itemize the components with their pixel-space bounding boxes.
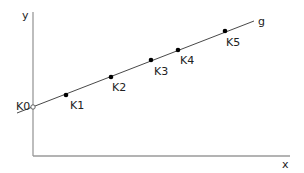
point-k4-label: K4 (180, 54, 194, 67)
point-k0-label: K0 (16, 100, 30, 113)
point-k0 (31, 105, 35, 109)
point-k5 (223, 29, 228, 34)
diagram-canvas: y x g K0 K1 K2 K3 K4 K5 (0, 0, 304, 173)
point-k1 (64, 93, 69, 98)
point-k2-label: K2 (112, 81, 126, 94)
point-k2 (109, 75, 114, 80)
point-k3 (149, 58, 154, 63)
point-k5-label: K5 (226, 36, 240, 49)
x-axis-label: x (282, 158, 289, 171)
y-axis-label: y (22, 9, 29, 22)
line-g-label: g (258, 15, 265, 28)
point-k1-label: K1 (70, 99, 84, 112)
line-g (17, 21, 254, 113)
point-k3-label: K3 (154, 65, 168, 78)
point-k4 (176, 48, 181, 53)
